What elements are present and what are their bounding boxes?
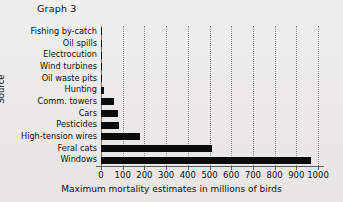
bar — [101, 98, 114, 105]
bar — [101, 28, 102, 35]
x-tick-label-300: 300 — [158, 170, 174, 180]
category-label: Pesticides — [56, 120, 97, 129]
category-label: Electrocution — [43, 50, 97, 59]
category-label-column: Fishing by-catchOil spillsElectrocutionW… — [0, 26, 97, 166]
category-label: Fishing by-catch — [31, 27, 97, 36]
category-label: Comm. towers — [38, 97, 97, 106]
plot-area — [101, 26, 318, 166]
x-tick-label-900: 900 — [288, 170, 304, 180]
bar — [101, 63, 102, 70]
category-label: Wind turbines — [40, 62, 97, 71]
x-tick-label-400: 400 — [180, 170, 196, 180]
bar — [101, 110, 118, 117]
x-tick-label-1000: 1000 — [307, 170, 329, 180]
gridline-1000 — [318, 26, 319, 166]
bar — [101, 157, 311, 164]
bar — [101, 87, 104, 94]
bar — [101, 122, 119, 129]
x-axis-label: Maximum mortality estimates in millions … — [0, 184, 343, 194]
x-tick-label-800: 800 — [266, 170, 282, 180]
category-label: Feral cats — [57, 144, 97, 153]
category-label: Windows — [60, 155, 97, 164]
bar — [101, 75, 102, 82]
bar-series — [101, 26, 318, 166]
x-tick-label-100: 100 — [115, 170, 131, 180]
category-label: High-tension wires — [21, 132, 97, 141]
x-tick-label-500: 500 — [201, 170, 217, 180]
category-label: Hunting — [65, 85, 97, 94]
x-tick-label-0: 0 — [98, 170, 103, 180]
bar — [101, 133, 140, 140]
bar — [101, 52, 102, 59]
category-label: Oil waste pits — [42, 74, 97, 83]
bar — [101, 40, 102, 47]
bar — [101, 145, 212, 152]
graph-title: Graph 3 — [37, 3, 77, 14]
x-tick-label-700: 700 — [245, 170, 261, 180]
x-tick-label-600: 600 — [223, 170, 239, 180]
x-tick-label-200: 200 — [136, 170, 152, 180]
category-label: Cars — [79, 109, 97, 118]
category-label: Oil spills — [63, 39, 97, 48]
